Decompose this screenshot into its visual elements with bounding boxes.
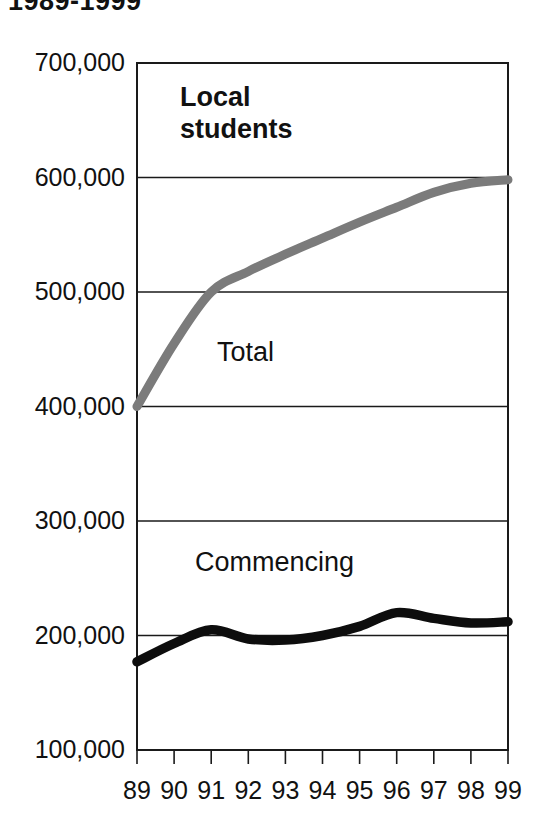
y-axis-tick-label: 500,000 (35, 279, 125, 304)
x-axis-tick-label: 89 (123, 778, 151, 803)
x-axis-tick-label: 91 (197, 778, 225, 803)
y-axis-tick-label: 200,000 (35, 623, 125, 648)
x-axis-tick-label: 90 (160, 778, 188, 803)
x-axis-tick-label: 94 (309, 778, 337, 803)
x-axis-tick-label: 98 (457, 778, 485, 803)
y-axis-tick-label: 700,000 (35, 50, 125, 75)
y-axis-tick-labels: 700,000600,000500,000400,000300,000200,0… (0, 0, 131, 840)
y-axis-tick-label: 600,000 (35, 165, 125, 190)
series-line-total[interactable] (137, 180, 508, 407)
panel-title: Local students (180, 82, 293, 146)
series-line-commencing[interactable] (137, 612, 508, 661)
x-axis-tick-label: 99 (494, 778, 522, 803)
x-axis-tick-label: 95 (346, 778, 374, 803)
panel-title-line-2: students (180, 114, 293, 146)
x-axis-tick-label: 97 (420, 778, 448, 803)
x-axis-tick-label: 93 (271, 778, 299, 803)
panel-title-line-1: Local (180, 82, 293, 114)
x-axis-tick-labels: 8990919293949596979899 (0, 778, 547, 818)
series-label-commencing: Commencing (195, 547, 354, 578)
chart-page: 1989-1999 700,000600,000500,000400,00030… (0, 0, 547, 840)
x-tickmarks (137, 750, 508, 764)
y-axis-tick-label: 100,000 (35, 737, 125, 762)
series-label-total: Total (217, 337, 274, 368)
x-axis-tick-label: 92 (234, 778, 262, 803)
y-axis-tick-label: 300,000 (35, 508, 125, 533)
y-axis-tick-label: 400,000 (35, 394, 125, 419)
x-axis-tick-label: 96 (383, 778, 411, 803)
